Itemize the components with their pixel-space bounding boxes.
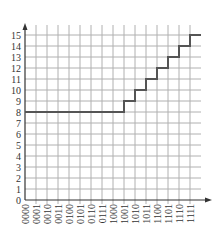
y-axis-arrow-icon [23, 23, 28, 30]
x-tick-label: 0111 [97, 204, 108, 223]
x-tick-label: 1100 [152, 204, 163, 224]
x-tick-label: 0010 [42, 204, 53, 224]
y-tick-label: 8 [16, 107, 21, 118]
y-tick-label: 4 [16, 151, 21, 162]
step-chart: 0123456789101112131415 00000001001000110… [0, 0, 214, 237]
y-tick-label: 12 [11, 63, 21, 74]
y-tick-label: 6 [16, 129, 21, 140]
x-axis-arrow-icon [205, 198, 212, 203]
x-tick-label: 1101 [163, 204, 174, 224]
y-tick-label: 2 [16, 173, 21, 184]
x-tick-label: 1111 [185, 204, 196, 223]
y-tick-label: 5 [16, 140, 21, 151]
y-tick-label: 11 [11, 74, 21, 85]
x-tick-label: 1011 [141, 204, 152, 224]
y-tick-label: 9 [16, 96, 21, 107]
x-tick-label: 1010 [130, 204, 141, 224]
x-tick-label: 0011 [53, 204, 64, 224]
x-tick-label: 0100 [64, 204, 75, 224]
y-tick-label: 3 [16, 162, 21, 173]
x-tick-label: 1110 [174, 204, 185, 223]
y-tick-label: 14 [11, 41, 21, 52]
y-tick-label: 15 [11, 30, 21, 41]
y-tick-label: 10 [11, 85, 21, 96]
x-tick-label: 0001 [31, 204, 42, 224]
x-axis-tick-labels: 0000000100100011010001010110011110001001… [20, 204, 196, 224]
y-tick-label: 0 [16, 195, 21, 206]
x-tick-label: 1000 [108, 204, 119, 224]
x-tick-label: 0101 [75, 204, 86, 224]
grid-lines [25, 25, 201, 204]
x-tick-label: 0110 [86, 204, 97, 224]
y-axis-tick-labels: 0123456789101112131415 [11, 30, 21, 206]
y-tick-label: 7 [16, 118, 21, 129]
y-tick-label: 1 [16, 184, 21, 195]
y-tick-label: 13 [11, 52, 21, 63]
x-tick-label: 0000 [20, 204, 31, 224]
x-tick-label: 1001 [119, 204, 130, 224]
